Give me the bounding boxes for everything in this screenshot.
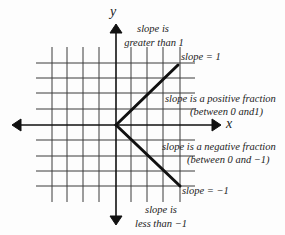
x-axis-label: x	[226, 118, 232, 130]
label-negative-fraction-line2: (between 0 and −1)	[187, 154, 270, 166]
label-positive-fraction-line2: (between 0 and1)	[190, 106, 263, 118]
x-axis-right-arrow-icon	[212, 119, 221, 131]
label-slope-greater-than-1-line1: slope is	[120, 23, 186, 35]
slope-diagram: y x slope is greater than 1 slope = 1 sl…	[0, 0, 285, 235]
x-axis-left-arrow-icon	[12, 119, 21, 131]
label-slope-equals-1: slope = 1	[181, 51, 221, 63]
label-slope-equals-negative-1: slope = −1	[182, 185, 229, 197]
label-positive-fraction-line1: slope is a positive fraction	[165, 93, 276, 105]
y-axis-down-arrow-icon	[110, 216, 122, 225]
label-slope-less-than-negative-1-line2: less than −1	[128, 218, 194, 230]
label-slope-less-than-negative-1-line1: slope is	[133, 204, 189, 216]
label-slope-greater-than-1-line2: greater than 1	[118, 37, 190, 49]
label-negative-fraction-line1: slope is a negative fraction	[162, 141, 276, 153]
y-axis-label: y	[110, 6, 116, 18]
